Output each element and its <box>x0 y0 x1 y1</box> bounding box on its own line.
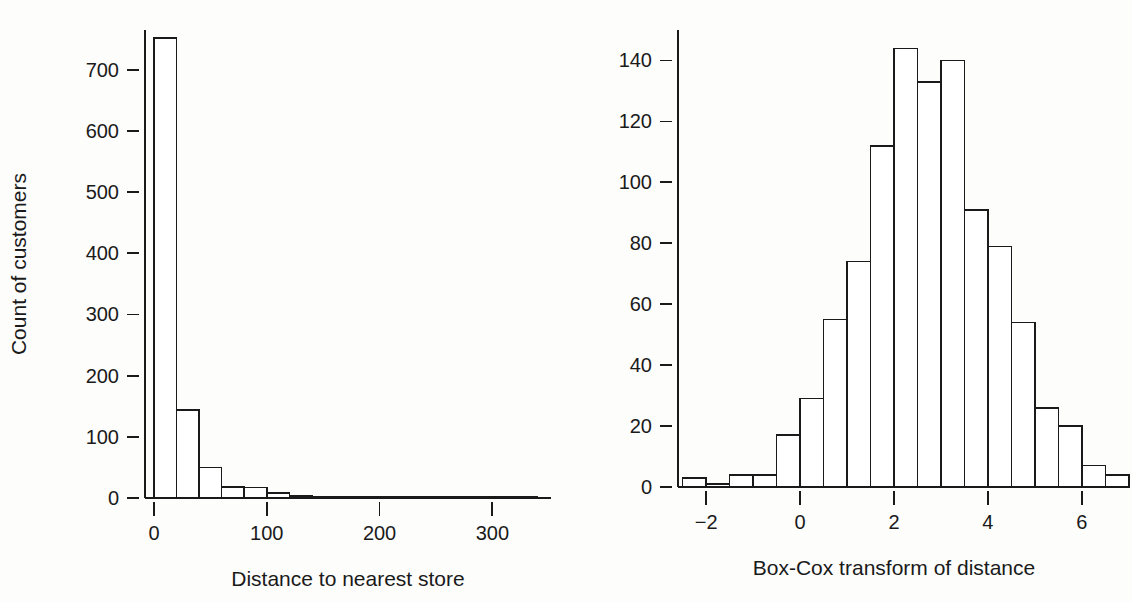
histogram-bar <box>244 488 267 498</box>
y-axis-tick-label: 600 <box>86 120 119 142</box>
histogram-bar <box>753 475 776 487</box>
histogram-bar <box>1058 426 1081 487</box>
y-axis-tick-label: 40 <box>630 354 652 376</box>
histogram-bar <box>847 262 870 487</box>
panel-distance-histogram: 01002003004005006007000100200300Distance… <box>0 0 566 602</box>
histogram-bar <box>964 210 987 487</box>
histogram-bar <box>1105 475 1128 487</box>
x-axis-tick-label: 4 <box>982 511 993 533</box>
y-axis-tick-label: 400 <box>86 242 119 264</box>
y-axis-tick-label: 100 <box>86 426 119 448</box>
y-axis-tick-label: 700 <box>86 59 119 81</box>
histogram-bar <box>222 487 245 498</box>
histogram-bar <box>824 319 847 487</box>
histogram-bar <box>515 497 538 498</box>
histogram-bar <box>917 82 940 487</box>
y-axis-tick-label: 140 <box>619 49 652 71</box>
y-axis-tick-label: 500 <box>86 181 119 203</box>
x-axis-tick-label: 2 <box>888 511 899 533</box>
histogram-bar <box>470 497 493 498</box>
boxcox-plot-group: 020406080100120140−20246Box-Cox transfor… <box>566 30 1129 579</box>
histogram-bar <box>289 496 312 498</box>
x-axis-tick-label: 0 <box>148 522 159 544</box>
x-axis-title: Box-Cox transform of distance <box>753 556 1035 579</box>
x-axis-tick-label: 300 <box>476 522 509 544</box>
histogram-bar <box>1035 408 1058 487</box>
y-axis-tick-label: 200 <box>86 365 119 387</box>
histogram-bar <box>357 497 380 498</box>
histogram-bar <box>447 497 470 498</box>
histogram-bar <box>988 246 1011 487</box>
y-axis-tick-label: 0 <box>641 476 652 498</box>
boxcox-histogram-svg: 020406080100120140−20246Box-Cox transfor… <box>566 0 1132 602</box>
histogram-bar <box>425 497 448 498</box>
histogram-bar <box>1011 322 1034 487</box>
histogram-bar <box>683 478 706 487</box>
histogram-bar <box>871 146 894 487</box>
figure-two-histograms: 01002003004005006007000100200300Distance… <box>0 0 1132 602</box>
histogram-bar <box>941 60 964 487</box>
histogram-bar <box>800 399 823 487</box>
y-axis-tick-label: 80 <box>630 232 652 254</box>
histogram-bar <box>334 497 357 498</box>
histogram-bar <box>492 497 515 498</box>
histogram-bar <box>730 475 753 487</box>
y-axis-tick-label: 120 <box>619 110 652 132</box>
histogram-bar <box>154 38 177 498</box>
histogram-bar <box>199 467 222 498</box>
x-axis-tick-label: 6 <box>1076 511 1087 533</box>
histogram-bar <box>177 410 200 498</box>
y-axis-tick-label: 300 <box>86 303 119 325</box>
histogram-bar <box>312 497 335 498</box>
x-axis-title: Distance to nearest store <box>231 567 464 590</box>
y-axis-tick-label: 100 <box>619 171 652 193</box>
histogram-bar <box>894 48 917 487</box>
x-axis-tick-label: 200 <box>363 522 396 544</box>
y-axis-tick-label: 60 <box>630 293 652 315</box>
histogram-bar <box>267 493 290 498</box>
histogram-bar <box>777 435 800 487</box>
histogram-bar <box>380 497 403 498</box>
y-axis-tick-label: 20 <box>630 415 652 437</box>
distance-histogram-svg: 01002003004005006007000100200300Distance… <box>0 0 566 602</box>
x-axis-tick-label: −2 <box>695 511 718 533</box>
x-axis-tick-label: 100 <box>250 522 283 544</box>
histogram-bar <box>706 484 729 487</box>
panel-boxcox-histogram: 020406080100120140−20246Box-Cox transfor… <box>566 0 1132 602</box>
y-axis-title: Count of customers <box>7 173 30 355</box>
histogram-bar <box>402 497 425 498</box>
histogram-bar <box>1082 466 1105 487</box>
y-axis-tick-label: 0 <box>108 487 119 509</box>
x-axis-tick-label: 0 <box>795 511 806 533</box>
